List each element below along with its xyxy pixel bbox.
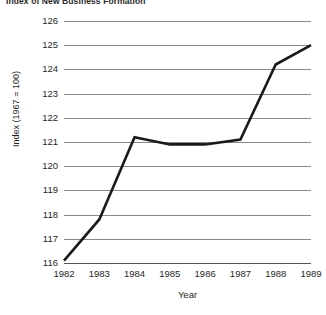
x-tick-label: 1983: [79, 268, 119, 279]
y-tick-label: 120: [32, 161, 58, 171]
y-tick-label: 116: [32, 258, 58, 268]
y-tick-label: 124: [32, 64, 58, 74]
y-tick-label: 121: [32, 137, 58, 147]
chart-figure: Index of New Business Formation Index (1…: [0, 0, 326, 315]
x-tick-label: 1987: [220, 268, 260, 279]
y-tick-label: 117: [32, 234, 58, 244]
x-tick-label: 1989: [291, 268, 326, 279]
y-tick-label: 125: [32, 40, 58, 50]
plot-area: [64, 21, 311, 263]
y-axis-title: Index (1967 = 100): [11, 49, 21, 169]
chart-title: Index of New Business Formation: [6, 0, 246, 6]
x-axis-line: [64, 263, 311, 264]
data-series-line: [64, 21, 311, 263]
x-tick-label: 1988: [256, 268, 296, 279]
y-tick-label: 122: [32, 113, 58, 123]
y-tick-label: 123: [32, 89, 58, 99]
x-axis-tick-labels: 19821983198419851986198719881989: [64, 268, 311, 282]
x-tick-label: 1984: [115, 268, 155, 279]
x-tick-label: 1982: [44, 268, 84, 279]
y-axis-tick-labels: 116117118119120121122123124125126: [30, 21, 58, 263]
y-tick-label: 126: [32, 16, 58, 26]
x-axis-title: Year: [64, 289, 311, 300]
y-tick-label: 119: [32, 185, 58, 195]
x-tick-label: 1986: [185, 268, 225, 279]
x-tick-label: 1985: [150, 268, 190, 279]
y-tick-label: 118: [32, 210, 58, 220]
